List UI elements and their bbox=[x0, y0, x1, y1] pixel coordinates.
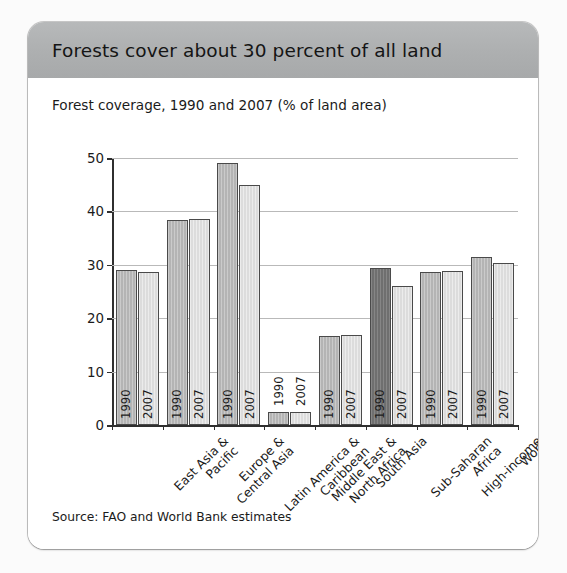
x-tick-mark bbox=[518, 425, 519, 430]
bar-year-label: 2007 bbox=[446, 383, 460, 419]
bars-layer: 1990200719902007199020071990200719902007… bbox=[112, 158, 518, 425]
chart-subtitle: Forest coverage, 1990 and 2007 (% of lan… bbox=[52, 97, 387, 113]
chart-source: Source: FAO and World Bank estimates bbox=[52, 510, 292, 524]
y-tick-label-30: 30 bbox=[58, 257, 104, 272]
bar bbox=[268, 412, 289, 425]
bar-year-label: 2007 bbox=[192, 383, 206, 419]
bar-year-label: 1990 bbox=[272, 370, 286, 406]
bar-year-label: 1990 bbox=[424, 383, 438, 419]
bar-year-label: 1990 bbox=[119, 383, 133, 419]
bar-year-label: 2007 bbox=[497, 383, 511, 419]
chart-plot: 01020304050 1990200719902007199020071990… bbox=[52, 128, 518, 498]
bar-year-label: 1990 bbox=[475, 383, 489, 419]
bar bbox=[290, 412, 311, 425]
bar-year-label: 2007 bbox=[395, 383, 409, 419]
y-tick-label-10: 10 bbox=[58, 364, 104, 379]
chart-card: Forests cover about 30 percent of all la… bbox=[28, 22, 538, 549]
page-title: Forests cover about 30 percent of all la… bbox=[52, 40, 442, 61]
bar-year-label: 1990 bbox=[322, 383, 336, 419]
y-tick-label-40: 40 bbox=[58, 204, 104, 219]
bar-year-label: 1990 bbox=[221, 383, 235, 419]
y-tick-label-20: 20 bbox=[58, 311, 104, 326]
bar-year-label: 2007 bbox=[243, 383, 257, 419]
bar-year-label: 2007 bbox=[344, 383, 358, 419]
bar-year-label: 2007 bbox=[294, 370, 308, 406]
x-axis-labels: East Asia &PacificEurope &Central AsiaLa… bbox=[112, 428, 518, 498]
page-background: Forests cover about 30 percent of all la… bbox=[0, 0, 567, 573]
y-tick-label-0: 0 bbox=[58, 418, 104, 433]
x-axis-label: Europe &Central Asia bbox=[224, 434, 297, 507]
y-tick-label-50: 50 bbox=[58, 151, 104, 166]
bar-year-label: 2007 bbox=[141, 383, 155, 419]
bar-year-label: 1990 bbox=[170, 383, 184, 419]
card-header: Forests cover about 30 percent of all la… bbox=[28, 22, 538, 78]
card-body: Forest coverage, 1990 and 2007 (% of lan… bbox=[28, 78, 538, 549]
bar-year-label: 1990 bbox=[373, 383, 387, 419]
